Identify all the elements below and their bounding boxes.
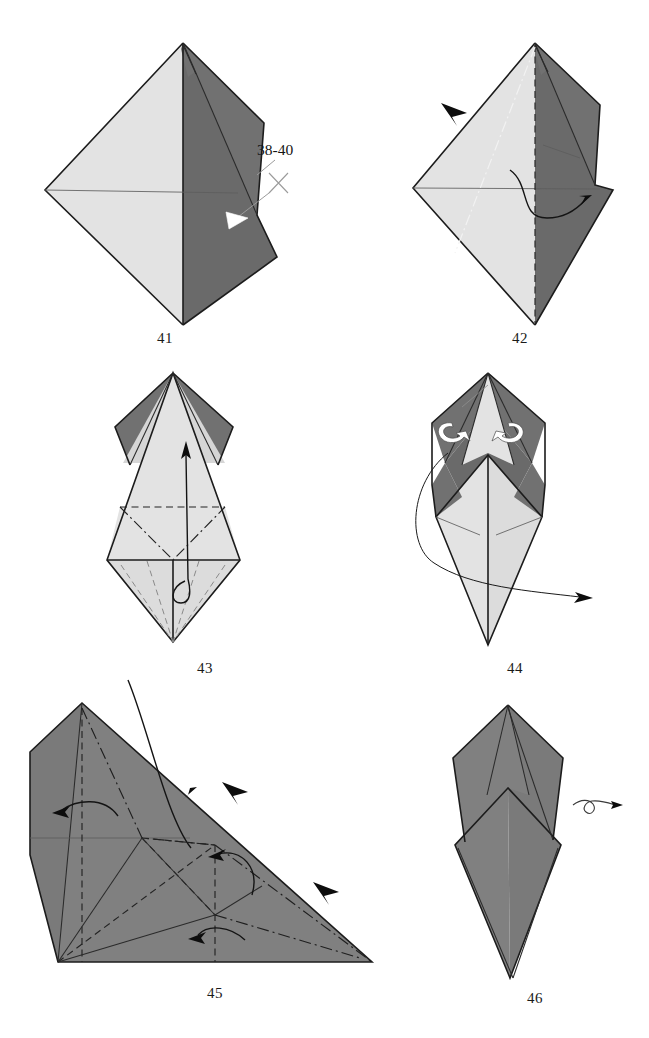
figure-44-graphic — [390, 365, 640, 660]
figure-42: 42 — [395, 25, 645, 355]
fig41-callout-label: 38-40 — [257, 141, 293, 158]
figure-41-caption: 41 — [20, 330, 310, 347]
fig45-repeat-arrowhead-lower-icon — [313, 882, 339, 905]
figure-43-caption: 43 — [85, 660, 325, 677]
figure-45-graphic — [30, 690, 400, 985]
fig42-light-front-panel — [413, 43, 535, 325]
fig44-turnover-arrowhead — [574, 592, 593, 603]
origami-diagram-page: 38-40 41 42 — [0, 0, 649, 1038]
figure-43: 43 — [85, 365, 325, 685]
figure-44-caption: 44 — [390, 660, 640, 677]
fig45-main-panel — [30, 703, 372, 962]
figure-43-graphic — [85, 365, 325, 660]
fig42-repeat-arrowhead-icon — [441, 103, 467, 126]
figure-42-caption: 42 — [395, 330, 645, 347]
fig45-repeat-arrowhead-upper-icon — [222, 782, 248, 805]
figure-44: 44 — [390, 365, 640, 685]
fig41-x-mark-icon — [269, 173, 288, 193]
figure-46-caption: 46 — [425, 990, 645, 1007]
figure-46: 46 — [425, 700, 645, 1020]
figure-41-graphic: 38-40 — [20, 25, 310, 330]
figure-42-graphic — [395, 25, 645, 330]
fig41-dark-lower-flap — [183, 43, 277, 325]
figure-46-graphic — [425, 700, 645, 990]
figure-45: 45 — [30, 690, 400, 1020]
figure-45-caption: 45 — [30, 985, 400, 1002]
fig43-middle-band — [107, 507, 240, 560]
fig41-light-front-panel — [45, 43, 183, 325]
figure-41: 38-40 41 — [20, 25, 310, 355]
fig46-rotate-symbol-icon — [573, 800, 623, 813]
